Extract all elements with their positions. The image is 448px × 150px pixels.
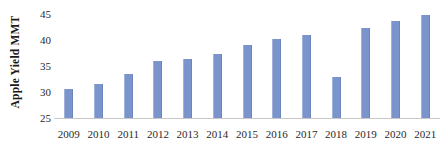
y-axis-tick: 35 [40, 60, 51, 72]
bar [302, 35, 311, 118]
x-axis-tick-labels: 2009201020112012201320142015201620172018… [54, 126, 440, 148]
x-axis-tick: 2015 [236, 128, 258, 140]
bar [391, 21, 400, 118]
y-axis-tick: 25 [40, 112, 51, 124]
y-axis-tick: 45 [40, 8, 51, 20]
bar [421, 15, 430, 118]
bar [94, 84, 103, 118]
x-axis-tick: 2017 [295, 128, 317, 140]
bar-chart: Apple Yield MMT 2530354045 2009201020112… [0, 0, 448, 150]
bar [183, 59, 192, 118]
x-axis-tick: 2016 [266, 128, 288, 140]
plot-area [54, 0, 440, 124]
bars-layer [54, 0, 440, 124]
bar [64, 89, 73, 118]
y-axis-title-label: Apple Yield MMT [9, 16, 21, 109]
x-axis-tick: 2009 [58, 128, 80, 140]
x-axis-tick: 2019 [355, 128, 377, 140]
bar [361, 28, 370, 118]
x-axis-tick: 2010 [88, 128, 110, 140]
x-axis-tick: 2020 [384, 128, 406, 140]
bar [243, 45, 252, 118]
bar [332, 77, 341, 118]
x-axis-tick: 2021 [414, 128, 436, 140]
x-axis-tick: 2018 [325, 128, 347, 140]
y-axis-tick: 30 [40, 86, 51, 98]
y-axis-tick: 40 [40, 34, 51, 46]
bar [272, 39, 281, 118]
bar [124, 74, 133, 118]
bar [213, 54, 222, 118]
bar [153, 61, 162, 118]
y-axis-title: Apple Yield MMT [0, 0, 30, 124]
x-axis-tick: 2012 [147, 128, 169, 140]
x-axis-tick: 2011 [117, 128, 139, 140]
x-axis-tick: 2014 [206, 128, 228, 140]
y-axis-tick-labels: 2530354045 [30, 0, 52, 124]
x-axis-tick: 2013 [177, 128, 199, 140]
